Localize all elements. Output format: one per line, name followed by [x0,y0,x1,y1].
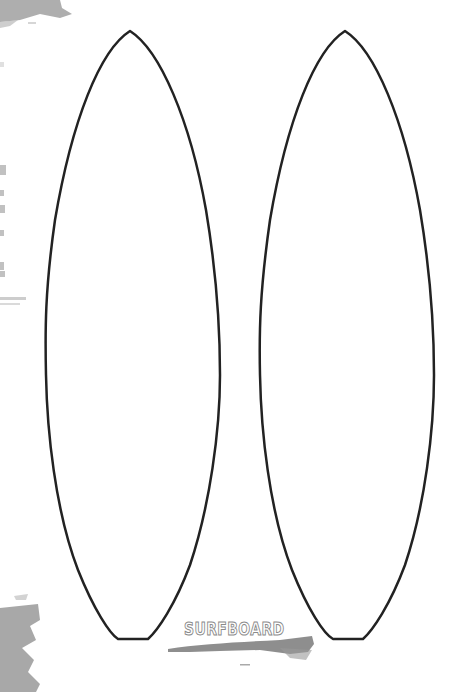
surfboard-title-label: SURFBOARD [184,619,285,639]
brush-texture-bottom-left [0,594,40,692]
drawing-canvas [0,0,463,692]
surfboard-template-page: SURFBOARD [0,0,463,692]
brush-texture-left-edge [0,62,26,305]
left-surfboard-outline [46,31,220,639]
brush-texture-top-left [0,0,72,28]
brush-stroke-under-label [168,636,314,666]
right-surfboard-outline [260,31,434,639]
